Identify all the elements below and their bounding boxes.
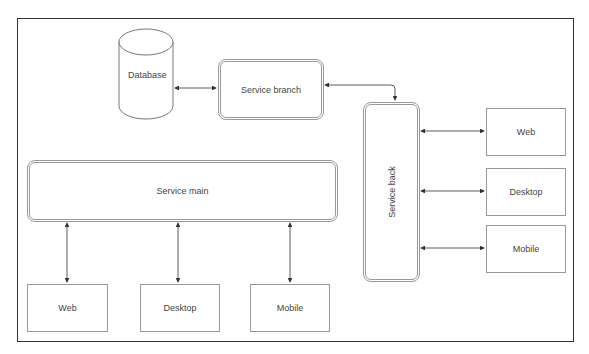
back-client-mobile-label: Mobile (513, 244, 540, 254)
service-main-label: Service main (156, 186, 208, 196)
main-client-desktop: Desktop (140, 284, 220, 332)
back-client-web: Web (486, 108, 566, 156)
service-branch-node: Service branch (218, 59, 324, 120)
back-client-web-label: Web (517, 127, 535, 137)
main-client-web: Web (27, 284, 108, 332)
main-client-mobile-label: Mobile (277, 303, 304, 313)
service-branch-label: Service branch (241, 85, 301, 95)
main-client-desktop-label: Desktop (163, 303, 196, 313)
back-client-desktop: Desktop (486, 168, 566, 216)
service-main-node: Service main (27, 160, 338, 222)
back-client-mobile: Mobile (486, 225, 566, 273)
main-client-web-label: Web (58, 303, 76, 313)
main-client-mobile: Mobile (250, 284, 330, 332)
back-client-desktop-label: Desktop (509, 187, 542, 197)
database-label: Database (128, 70, 167, 80)
service-back-node: Service back (363, 102, 420, 282)
service-back-label: Service back (387, 166, 397, 218)
